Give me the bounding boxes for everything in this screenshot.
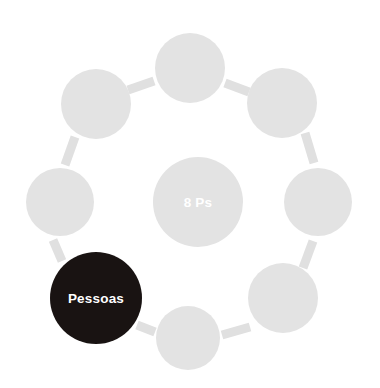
- node-left[interactable]: [26, 168, 94, 236]
- connector-bottom-right-to-bottom: [222, 327, 250, 335]
- center-node-layer: 8 Ps: [153, 157, 243, 247]
- connector-bottom-to-bottom-left: [137, 325, 155, 332]
- connector-right-to-bottom-right: [303, 241, 313, 268]
- connector-bottom-left-to-left: [53, 240, 62, 261]
- connector-top-right-to-right: [305, 133, 314, 163]
- node-top[interactable]: [155, 33, 225, 103]
- connector-top-to-top-right: [225, 83, 249, 92]
- node-top-circle[interactable]: [155, 33, 225, 103]
- node-left-circle[interactable]: [26, 168, 94, 236]
- connector-left-to-top-left: [65, 137, 75, 165]
- node-top-right-circle[interactable]: [247, 68, 317, 138]
- node-bottom-circle[interactable]: [156, 306, 220, 370]
- center-node[interactable]: 8 Ps: [153, 157, 243, 247]
- node-bottom-right-circle[interactable]: [248, 263, 318, 333]
- node-right-circle[interactable]: [284, 168, 352, 236]
- connector-top-left-to-top: [128, 81, 154, 90]
- diagram-canvas: Pessoas 8 Ps: [0, 0, 380, 388]
- node-bottom-right[interactable]: [248, 263, 318, 333]
- node-top-left-circle[interactable]: [61, 69, 131, 139]
- node-bottom[interactable]: [156, 306, 220, 370]
- node-bottom-left[interactable]: Pessoas: [50, 252, 142, 344]
- node-right[interactable]: [284, 168, 352, 236]
- ring-diagram: Pessoas 8 Ps: [0, 0, 380, 388]
- node-bottom-left-label: Pessoas: [68, 291, 124, 306]
- node-top-left[interactable]: [61, 69, 131, 139]
- center-node-label: 8 Ps: [184, 195, 213, 210]
- node-top-right[interactable]: [247, 68, 317, 138]
